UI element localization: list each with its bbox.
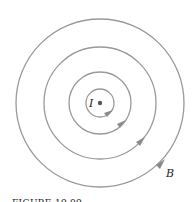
- current-label: I: [88, 97, 94, 110]
- magnetic-field-diagram: I B FIGURE 19.09: [0, 0, 196, 202]
- figure-caption: FIGURE 19.09: [12, 198, 82, 202]
- current-wire-dot: [98, 101, 102, 105]
- field-label: B: [165, 167, 174, 180]
- arrow-icon-2: [117, 120, 126, 128]
